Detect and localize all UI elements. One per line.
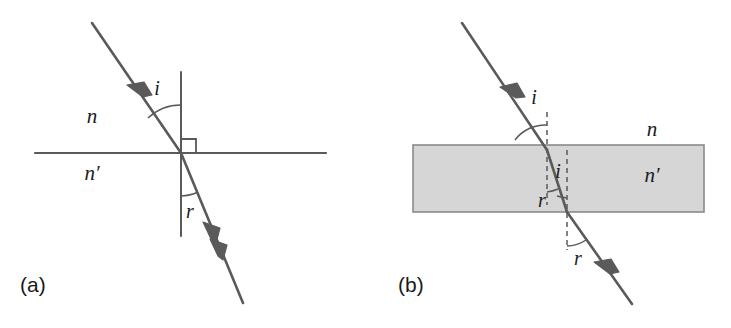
angle-label-i-inside-b: i [555, 160, 561, 182]
refracted-ray-arrowhead-a-second [210, 239, 227, 260]
refraction-angle-arc-a [181, 192, 198, 196]
angle-label-r-inside-b: r [538, 189, 546, 211]
medium-label-n-prime-b: n′ [644, 163, 660, 187]
panel-caption-b: (b) [398, 273, 424, 296]
angle-label-r-exit-b: r [574, 247, 582, 269]
refraction-figure: n n′ i r (a) n n′ i i r r [0, 0, 731, 328]
panel-caption-a: (a) [20, 273, 46, 296]
medium-label-n-prime-a: n′ [84, 161, 100, 185]
figure-canvas: n n′ i r (a) n n′ i i r r [0, 0, 731, 328]
emergence-angle-arc-b [567, 240, 586, 246]
incident-ray-arrowhead-a [127, 82, 152, 97]
emergent-ray-arrowhead-b [594, 259, 619, 274]
right-angle-marker-icon [182, 139, 196, 153]
angle-label-r-a: r [186, 200, 194, 222]
medium-label-n-a: n [87, 104, 98, 128]
panel-b: n n′ i i r r (b) [398, 23, 704, 304]
angle-label-i-top-b: i [531, 86, 537, 108]
medium-label-n-b: n [647, 117, 658, 141]
angle-label-i-a: i [154, 77, 160, 99]
panel-a: n n′ i r (a) [20, 23, 326, 303]
